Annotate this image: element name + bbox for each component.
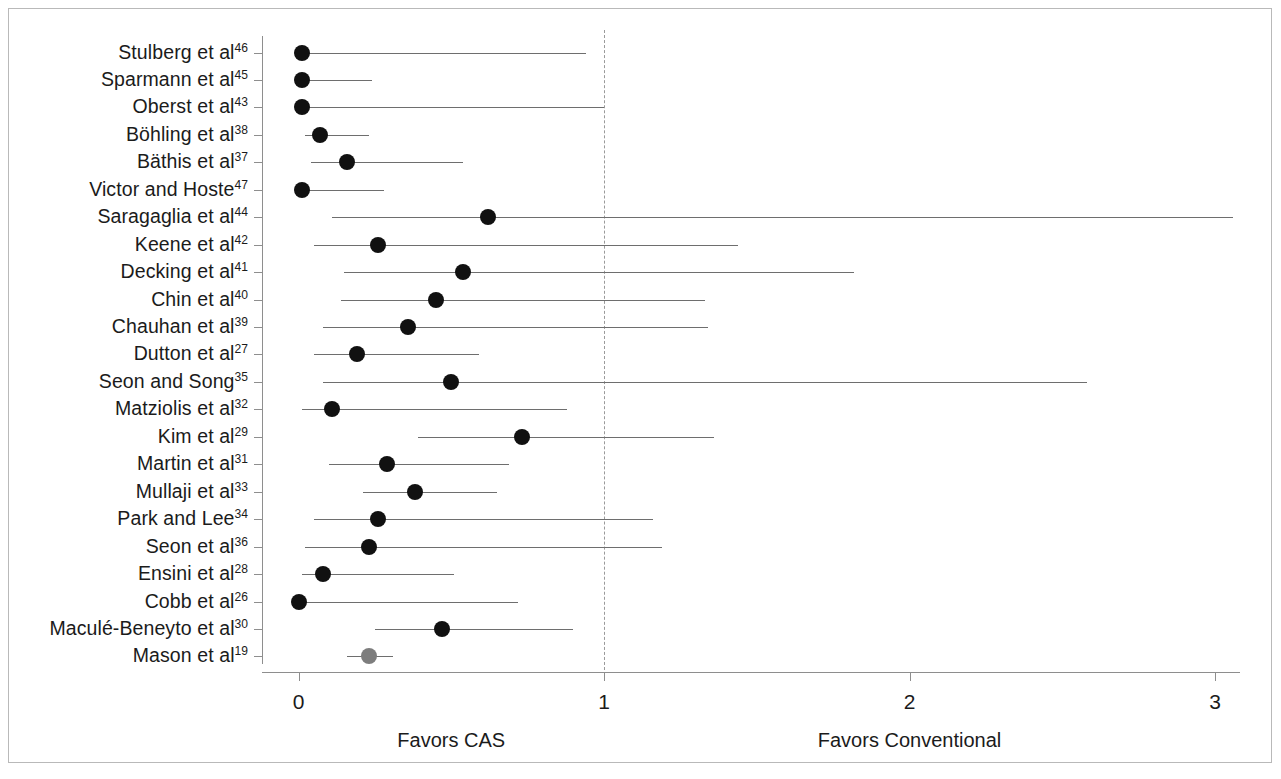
confidence-interval-line	[332, 217, 1233, 218]
confidence-interval-line	[302, 80, 372, 81]
effect-estimate-marker	[370, 511, 386, 527]
confidence-interval-line	[375, 629, 574, 630]
plot-area: 0123 Favors CASFavors Conventional	[0, 0, 1281, 779]
confidence-interval-line	[418, 437, 714, 438]
y-axis-tick	[254, 656, 262, 657]
effect-estimate-marker	[400, 319, 416, 335]
x-axis-tick-label: 2	[904, 691, 916, 712]
confidence-interval-line	[323, 327, 708, 328]
y-axis-tick	[254, 272, 262, 273]
effect-estimate-marker	[514, 429, 530, 445]
confidence-interval-line	[314, 519, 653, 520]
x-axis-tick-label: 3	[1209, 691, 1221, 712]
effect-estimate-marker	[361, 648, 377, 664]
effect-estimate-marker	[379, 456, 395, 472]
x-axis-tick	[299, 672, 300, 681]
x-axis-tick	[910, 672, 911, 681]
confidence-interval-line	[302, 190, 384, 191]
confidence-interval-line	[302, 53, 586, 54]
y-axis-tick	[254, 602, 262, 603]
effect-estimate-marker	[443, 374, 459, 390]
effect-estimate-marker	[315, 566, 331, 582]
y-axis-tick	[254, 437, 262, 438]
effect-estimate-marker	[428, 292, 444, 308]
effect-estimate-marker	[361, 539, 377, 555]
effect-estimate-marker	[294, 45, 310, 61]
effect-estimate-marker	[294, 72, 310, 88]
y-axis-tick	[254, 519, 262, 520]
y-axis-tick	[254, 409, 262, 410]
effect-estimate-marker	[294, 182, 310, 198]
y-axis-tick	[254, 382, 262, 383]
y-axis-tick	[254, 80, 262, 81]
y-axis-tick	[254, 327, 262, 328]
effect-estimate-marker	[324, 401, 340, 417]
effect-estimate-marker	[294, 99, 310, 115]
confidence-interval-line	[341, 300, 705, 301]
y-axis-line	[262, 36, 263, 664]
y-axis-tick	[254, 107, 262, 108]
y-axis-tick	[254, 245, 262, 246]
x-axis-tick-label: 0	[293, 691, 305, 712]
confidence-interval-line	[311, 162, 464, 163]
effect-estimate-marker	[407, 484, 423, 500]
effect-estimate-marker	[312, 127, 328, 143]
confidence-interval-line	[305, 547, 662, 548]
y-axis-tick	[254, 547, 262, 548]
confidence-interval-line	[314, 354, 479, 355]
y-axis-tick	[254, 190, 262, 191]
y-axis-tick	[254, 135, 262, 136]
effect-estimate-marker	[434, 621, 450, 637]
y-axis-tick	[254, 300, 262, 301]
axis-direction-caption: Favors CAS	[397, 730, 505, 750]
y-axis-tick	[254, 162, 262, 163]
effect-estimate-marker	[455, 264, 471, 280]
y-axis-tick	[254, 492, 262, 493]
effect-estimate-marker	[370, 237, 386, 253]
confidence-interval-line	[302, 107, 604, 108]
effect-estimate-marker	[480, 209, 496, 225]
confidence-interval-line	[329, 464, 509, 465]
confidence-interval-line	[302, 409, 568, 410]
y-axis-tick	[254, 574, 262, 575]
null-effect-line	[604, 30, 605, 670]
forest-plot-figure: Stulberg et al46Sparmann et al45Oberst e…	[0, 0, 1281, 779]
axis-direction-caption: Favors Conventional	[818, 730, 1001, 750]
effect-estimate-marker	[349, 346, 365, 362]
y-axis-tick	[254, 217, 262, 218]
effect-estimate-marker	[291, 594, 307, 610]
y-axis-tick	[254, 629, 262, 630]
y-axis-tick	[254, 464, 262, 465]
confidence-interval-line	[363, 492, 497, 493]
confidence-interval-line	[344, 272, 854, 273]
effect-estimate-marker	[339, 154, 355, 170]
confidence-interval-line	[323, 382, 1087, 383]
confidence-interval-line	[299, 602, 519, 603]
x-axis-line	[262, 672, 1240, 673]
y-axis-tick	[254, 354, 262, 355]
x-axis-tick	[604, 672, 605, 681]
x-axis-tick-label: 1	[598, 691, 610, 712]
x-axis-tick	[1215, 672, 1216, 681]
y-axis-tick	[254, 53, 262, 54]
